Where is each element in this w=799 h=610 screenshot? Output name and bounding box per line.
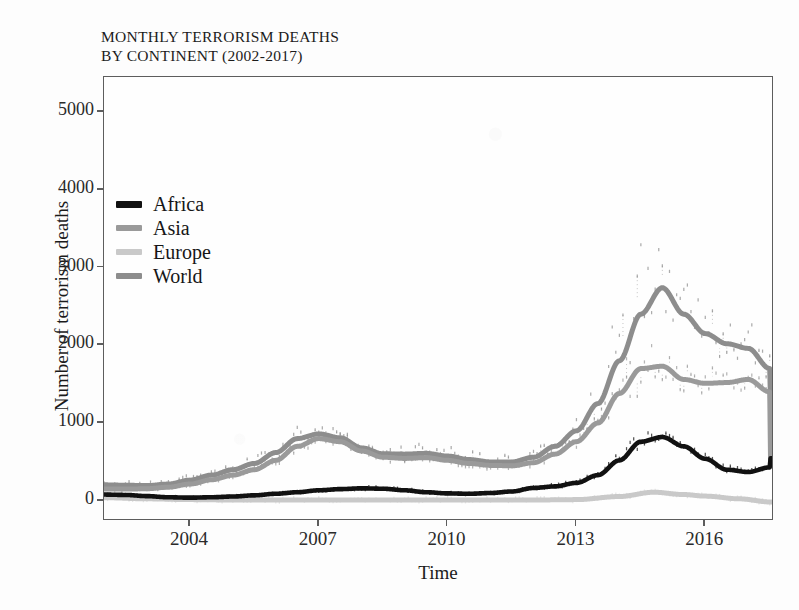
legend-label: Asia	[153, 218, 190, 238]
x-tick-label: 2013	[530, 528, 620, 550]
series-line-asia	[104, 366, 773, 489]
y-tick-label: 5000	[14, 99, 94, 120]
y-tick-label: 4000	[14, 177, 94, 198]
chart-page: MONTHLY TERRORISM DEATHS BY CONTINENT (2…	[0, 0, 799, 610]
chart-canvas	[104, 77, 773, 520]
y-tick-label: 0	[14, 488, 94, 509]
legend-swatch-asia	[116, 225, 142, 231]
x-tick-mark	[575, 520, 577, 526]
y-tick-label: 1000	[14, 410, 94, 431]
x-tick-mark	[188, 520, 190, 526]
x-tick-label: 2007	[273, 528, 363, 550]
x-axis-title: Time	[103, 562, 773, 584]
legend-swatch-world	[116, 273, 142, 279]
legend-item-world[interactable]: World	[116, 264, 266, 288]
legend-item-europe[interactable]: Europe	[116, 240, 266, 264]
plot-area	[103, 76, 773, 520]
legend-label: Africa	[153, 194, 204, 214]
x-tick-label: 2010	[402, 528, 492, 550]
y-tick-label: 2000	[14, 332, 94, 353]
chart-title: MONTHLY TERRORISM DEATHS BY CONTINENT (2…	[101, 27, 601, 65]
legend-swatch-africa	[116, 201, 142, 208]
x-tick-label: 2016	[659, 528, 749, 550]
series-line-africa	[104, 437, 773, 498]
legend-swatch-europe	[116, 249, 142, 255]
x-tick-mark	[317, 520, 319, 526]
legend-item-asia[interactable]: Asia	[116, 216, 266, 240]
chart-legend: AfricaAsiaEuropeWorld	[116, 192, 266, 288]
x-tick-label: 2004	[144, 528, 234, 550]
legend-label: World	[153, 266, 203, 286]
legend-label: Europe	[153, 242, 211, 262]
series-line-world	[104, 288, 773, 486]
y-tick-label: 3000	[14, 255, 94, 276]
legend-item-africa[interactable]: Africa	[116, 192, 266, 216]
x-tick-mark	[446, 520, 448, 526]
x-tick-mark	[703, 520, 705, 526]
